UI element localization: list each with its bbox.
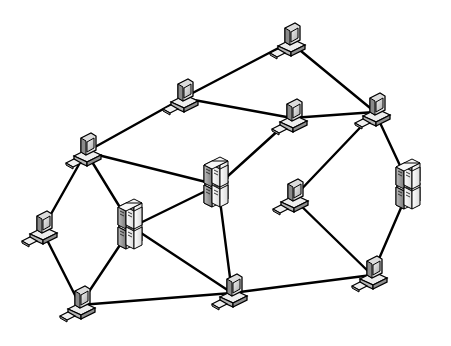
server-icon-server-left (118, 199, 142, 249)
server-icon-server-center (204, 157, 228, 207)
diagram-canvas (0, 0, 451, 346)
link-pc-top-pc-upper-right (290, 42, 375, 112)
link-pc-mid-right-pc-bottom-right (293, 198, 372, 275)
link-pc-bottom-left-pc-bottom-mid (80, 293, 232, 305)
workstation-icon-pc-left (66, 133, 101, 169)
workstation-icon-pc-upper-left (163, 79, 198, 115)
workstation-icon-pc-mid-right (273, 179, 308, 215)
workstation-icon-pc-top (270, 23, 305, 59)
network-diagram (0, 0, 451, 346)
link-server-left-pc-bottom-mid (132, 227, 232, 293)
workstation-icon-pc-far-left (22, 211, 57, 247)
link-pc-left-server-center (86, 152, 218, 185)
server-icon-server-right (396, 159, 420, 209)
link-pc-bottom-mid-pc-bottom-right (232, 275, 372, 293)
